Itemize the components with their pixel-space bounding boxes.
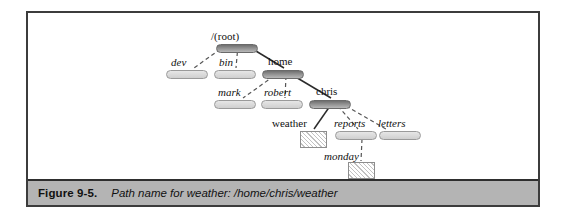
node-label-root: /(root) [211, 31, 239, 42]
node-label-bin: bin [219, 57, 233, 68]
node-label-chris: chris [316, 86, 337, 97]
node-bin[interactable] [214, 70, 256, 79]
node-weather[interactable] [300, 131, 327, 148]
node-root[interactable] [216, 44, 258, 53]
node-dev[interactable] [166, 70, 208, 79]
node-label-monday: monday [324, 151, 359, 162]
node-mark[interactable] [214, 100, 256, 109]
node-home[interactable] [262, 70, 304, 79]
node-label-home: home [268, 56, 292, 67]
node-label-weather: weather [272, 118, 307, 129]
node-robert[interactable] [261, 100, 303, 109]
node-monday[interactable] [348, 162, 375, 179]
node-label-mark: mark [218, 87, 241, 98]
node-label-dev: dev [171, 57, 186, 68]
figure-frame: /(root) dev bin home mark robert chris w… [26, 11, 540, 207]
figure-number-label: Figure 9-5. [38, 187, 97, 199]
figure-caption-bar: Figure 9-5. Path name for weather: /home… [28, 179, 538, 205]
filesystem-tree-diagram: /(root) dev bin home mark robert chris w… [28, 13, 538, 179]
node-label-reports: reports [334, 118, 365, 129]
figure-caption-text: Path name for weather: /home/chris/weath… [111, 187, 337, 199]
node-label-letters: letters [378, 118, 406, 129]
node-label-robert: robert [264, 87, 291, 98]
node-letters[interactable] [379, 131, 421, 140]
node-chris[interactable] [309, 100, 351, 109]
node-reports[interactable] [335, 131, 377, 140]
